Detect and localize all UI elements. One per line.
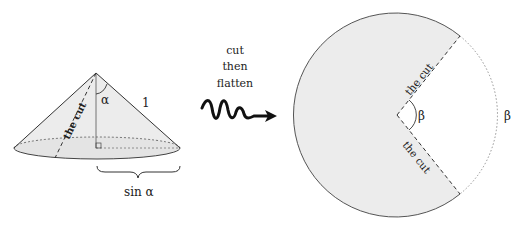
squiggle-arrow-icon <box>202 101 268 119</box>
diagram-canvas: α 1 the cut sin α cut then flatten β β t… <box>0 0 522 229</box>
disk-arc-label: β <box>504 109 511 123</box>
beta-arc <box>409 100 416 130</box>
radius-brace <box>97 166 180 178</box>
cone-radius-label: sin α <box>124 185 154 199</box>
arrow-text-flatten: flatten <box>217 77 253 90</box>
cone-slant-label: 1 <box>142 96 150 110</box>
arrow-text-cut: cut <box>226 44 244 57</box>
transform-arrow: cut then flatten <box>202 44 277 122</box>
arrow-text-then: then <box>222 60 247 73</box>
disk-angle-label: β <box>418 109 425 123</box>
cone-angle-label: α <box>101 93 109 107</box>
missing-arc <box>460 36 497 194</box>
cone-figure: α 1 the cut sin α <box>14 73 180 199</box>
flattened-disk: β β the cut the cut <box>293 13 511 217</box>
